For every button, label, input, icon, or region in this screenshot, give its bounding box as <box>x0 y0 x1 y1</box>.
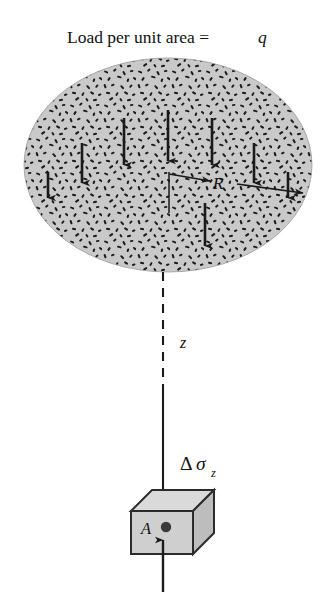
figure-title-text: Load per unit area = <box>67 27 209 47</box>
element-area-label: A <box>140 519 152 538</box>
stress-increase-subscript: z <box>210 466 216 480</box>
figure-title-symbol: q <box>258 27 267 47</box>
element-point-dot <box>161 522 171 532</box>
stress-increase-label-group: Δ σ z <box>180 453 216 480</box>
figure-canvas: R z Δ σ z A Load per unit area = <box>0 0 333 596</box>
loaded-area-ellipse <box>24 58 312 272</box>
depth-label: z <box>179 334 187 351</box>
stress-increase-sigma: σ <box>196 453 207 474</box>
stress-increase-delta: Δ <box>180 453 193 474</box>
figure-container: R z Δ σ z A Load per unit area = <box>0 0 333 596</box>
loaded-area-group <box>24 58 312 272</box>
radius-label: R <box>212 173 224 193</box>
